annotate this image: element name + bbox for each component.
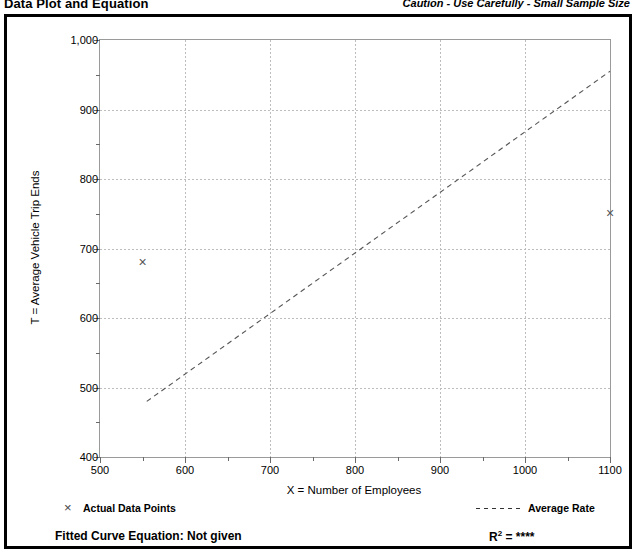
x-marker-icon: × — [64, 501, 72, 514]
page-title: Data Plot and Equation — [4, 0, 148, 11]
x-axis-minor-tick — [483, 457, 484, 461]
r-squared-number: = **** — [505, 530, 534, 544]
x-axis-tick — [100, 457, 101, 463]
y-axis-tick-label: 800 — [80, 173, 98, 185]
x-axis-minor-tick — [398, 457, 399, 461]
fitted-curve-equation: Fitted Curve Equation: Not given — [55, 529, 242, 543]
page-header: Data Plot and Equation Caution - Use Car… — [0, 0, 636, 14]
x-axis-title: X = Number of Employees — [99, 484, 609, 496]
x-axis-tick-label: 500 — [91, 464, 109, 476]
scatter-chart: T = Average Vehicle Trip Ends X = Number… — [7, 17, 635, 497]
x-axis-tick — [355, 457, 356, 463]
r-squared-prefix: R — [489, 530, 498, 544]
trendline-segment — [147, 71, 610, 401]
legend-label-actual-data-points: Actual Data Points — [83, 502, 176, 514]
y-axis-tick-label: 1,000 — [70, 34, 98, 46]
x-axis-tick-label: 700 — [261, 464, 279, 476]
x-axis-tick-label: 600 — [176, 464, 194, 476]
y-axis-tick-label: 500 — [80, 382, 98, 394]
x-axis-minor-tick — [313, 457, 314, 461]
legend-label-average-rate: Average Rate — [528, 502, 595, 514]
x-axis-minor-tick — [568, 457, 569, 461]
y-axis-title: T = Average Vehicle Trip Ends — [29, 39, 43, 456]
average-rate-trendline — [100, 40, 610, 457]
dashed-line-icon — [476, 508, 520, 509]
y-axis-tick-label: 600 — [80, 312, 98, 324]
y-axis-tick-label: 900 — [80, 104, 98, 116]
x-axis-tick — [525, 457, 526, 463]
x-axis-tick — [440, 457, 441, 463]
x-axis-tick-label: 900 — [431, 464, 449, 476]
caution-note: Caution - Use Carefully - Small Sample S… — [403, 0, 630, 9]
r-squared-exponent: 2 — [498, 529, 502, 538]
x-axis-tick — [185, 457, 186, 463]
x-axis-tick-label: 800 — [346, 464, 364, 476]
x-axis-minor-tick — [143, 457, 144, 461]
r-squared-value: R2 = **** — [489, 529, 535, 544]
plot-area: 4005006007008009001,00050060070080090010… — [99, 39, 611, 458]
x-axis-minor-tick — [228, 457, 229, 461]
x-axis-tick — [610, 457, 611, 463]
x-axis-tick-label: 1000 — [513, 464, 537, 476]
x-axis-tick-label: 1100 — [598, 464, 622, 476]
y-axis-tick-label: 700 — [80, 243, 98, 255]
chart-legend-footer: × Actual Data Points Average Rate Fitted… — [7, 497, 635, 546]
chart-panel: T = Average Vehicle Trip Ends X = Number… — [4, 14, 632, 549]
y-axis-tick-label: 400 — [80, 451, 98, 463]
x-axis-tick — [270, 457, 271, 463]
